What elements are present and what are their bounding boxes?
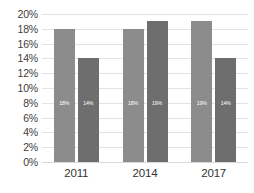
plot-area: 18%14%18%19%19%14% — [42, 14, 248, 162]
bar[interactable]: 14% — [215, 58, 236, 162]
y-axis: 20%18%16%14%12%10%8%6%4%2%0% — [0, 14, 38, 162]
bar-value-label: 19% — [197, 101, 207, 106]
x-axis: 201120142017 — [42, 163, 248, 183]
y-axis-tick-label: 8% — [0, 98, 38, 109]
bar-group: 18%14% — [42, 14, 111, 162]
bar-group-bars: 18%14% — [42, 14, 111, 162]
bar-group-bars: 18%19% — [111, 14, 180, 162]
bar[interactable]: 18% — [123, 29, 144, 162]
x-axis-tick-label: 2014 — [111, 163, 180, 183]
x-axis-tick-label: 2017 — [179, 163, 248, 183]
bar[interactable]: 18% — [54, 29, 75, 162]
y-axis-tick-label: 12% — [0, 68, 38, 79]
bar-group-bars: 19%14% — [179, 14, 248, 162]
bar[interactable]: 14% — [78, 58, 99, 162]
bar[interactable]: 19% — [147, 21, 168, 162]
x-axis-tick-label: 2011 — [42, 163, 111, 183]
y-axis-tick-label: 10% — [0, 83, 38, 94]
y-axis-tick-label: 14% — [0, 53, 38, 64]
y-axis-tick-label: 2% — [0, 142, 38, 153]
bar-groups: 18%14%18%19%19%14% — [42, 14, 248, 162]
bar-value-label: 18% — [59, 101, 69, 106]
bar-group: 19%14% — [179, 14, 248, 162]
y-axis-tick-label: 6% — [0, 112, 38, 123]
y-axis-tick-label: 4% — [0, 127, 38, 138]
bar-group: 18%19% — [111, 14, 180, 162]
bar-value-label: 18% — [128, 101, 138, 106]
bar-value-label: 19% — [152, 101, 162, 106]
bar[interactable]: 19% — [191, 21, 212, 162]
y-axis-tick-label: 18% — [0, 24, 38, 35]
bar-value-label: 14% — [83, 101, 93, 106]
bar-value-label: 14% — [221, 101, 231, 106]
bar-chart: 20%18%16%14%12%10%8%6%4%2%0% 18%14%18%19… — [0, 0, 254, 193]
y-axis-tick-label: 20% — [0, 9, 38, 20]
y-axis-tick-label: 0% — [0, 157, 38, 168]
y-axis-tick-label: 16% — [0, 38, 38, 49]
